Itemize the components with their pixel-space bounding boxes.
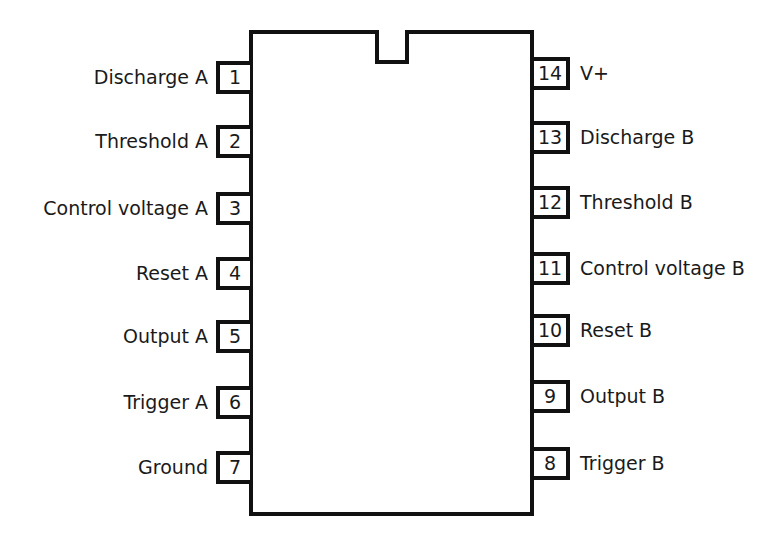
pin-10-box: 10 (534, 314, 570, 347)
orientation-notch (375, 30, 409, 64)
pin-2-box: 2 (216, 125, 250, 158)
pin-14-label: V+ (580, 61, 609, 85)
pin-9-label: Output B (580, 384, 665, 408)
pin-2-label: Threshold A (95, 129, 208, 153)
pin-9-box: 9 (534, 380, 570, 413)
pin-10-label: Reset B (580, 318, 652, 342)
pin-4-box: 4 (216, 257, 250, 290)
pin-3-label: Control voltage A (43, 196, 208, 220)
pin-8-label: Trigger B (580, 451, 665, 475)
pin-6-box: 6 (216, 386, 250, 419)
pin-12-label: Threshold B (580, 190, 693, 214)
pin-8-box: 8 (534, 447, 570, 480)
pin-7-label: Ground (138, 455, 208, 479)
pin-13-label: Discharge B (580, 125, 694, 149)
pin-14-box: 14 (534, 57, 570, 90)
pin-1-label: Discharge A (94, 65, 208, 89)
pin-3-box: 3 (216, 192, 250, 225)
pin-5-label: Output A (123, 324, 208, 348)
pin-6-label: Trigger A (123, 390, 208, 414)
ic-chip-body (249, 30, 534, 516)
pin-4-label: Reset A (136, 261, 208, 285)
pin-1-box: 1 (216, 61, 250, 94)
pin-11-label: Control voltage B (580, 256, 745, 280)
pin-5-box: 5 (216, 320, 250, 353)
pin-7-box: 7 (216, 451, 250, 484)
pin-12-box: 12 (534, 186, 570, 219)
pin-13-box: 13 (534, 121, 570, 154)
pin-11-box: 11 (534, 252, 570, 285)
